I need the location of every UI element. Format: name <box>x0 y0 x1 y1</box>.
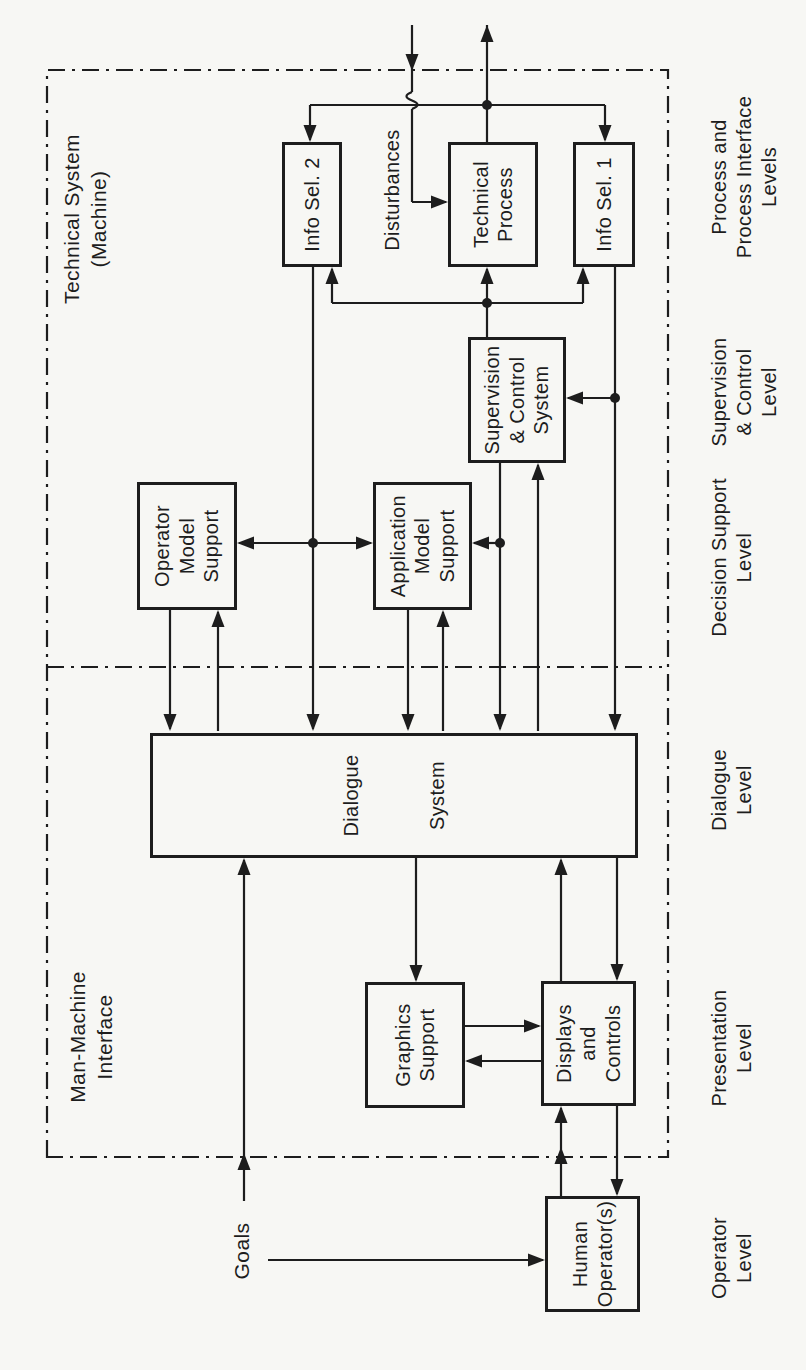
region-label-line: Technical System <box>58 114 85 324</box>
box-label-line: Operator <box>150 505 175 587</box>
level-label-line: Level <box>732 465 757 650</box>
displays-controls-box: Displays and Controls <box>541 981 636 1106</box>
box-label-line: Process <box>493 167 518 242</box>
level-label-line: & Control <box>732 317 757 467</box>
box-label-line: Controls <box>601 1005 626 1083</box>
decision-support-level-label: Decision Support Level <box>707 465 757 650</box>
operator-level-label: Operator Level <box>707 1183 757 1333</box>
box-label-line: Human <box>568 1221 593 1287</box>
level-label-line: Level <box>732 1183 757 1333</box>
disturbances-label: Disturbances <box>381 116 404 264</box>
human-operator-box: Human Operator(s) <box>545 1196 640 1312</box>
box-label-line: & Control <box>505 357 530 444</box>
presentation-level-label: Presentation Level <box>707 968 757 1128</box>
man-machine-interface-label: Man-Machine Interface <box>64 947 118 1127</box>
box-label-line: Support <box>199 510 224 583</box>
technical-process-box: Technical Process <box>448 142 538 267</box>
level-label-line: Dialogue <box>707 715 732 865</box>
disturbance-line-jump <box>407 92 418 109</box>
box-label-line: Graphics <box>391 1003 416 1086</box>
level-label-line: Presentation <box>707 968 732 1128</box>
graphics-support-box: Graphics Support <box>365 982 465 1108</box>
dialogue-level-label: Dialogue Level <box>707 715 757 865</box>
level-label-line: Level <box>732 715 757 865</box>
box-label-line: Dialogue <box>339 754 364 836</box>
application-model-support-box: Application Model Support <box>373 482 472 610</box>
box-label-line: Info Sel. 1 <box>592 157 617 251</box>
supervision-control-level-label: Supervision & Control Level <box>707 317 782 467</box>
level-label-line: Decision Support <box>707 465 732 650</box>
box-label-line: Support <box>435 510 460 583</box>
level-label-line: Operator <box>707 1183 732 1333</box>
level-label-line: Level <box>732 968 757 1128</box>
box-label-line: Model <box>175 518 200 574</box>
box-label-line: and <box>576 1026 601 1061</box>
box-label-line: Operator(s) <box>593 1201 618 1308</box>
box-label-line: System <box>425 761 450 830</box>
box-label-line: Supervision <box>480 346 505 455</box>
technical-system-machine-label: Technical System (Machine) <box>58 114 112 324</box>
rotated-diagram-canvas: Human Operator(s) Displays and Controls … <box>0 0 806 1370</box>
process-interface-levels-label: Process and Process Interface Levels <box>707 84 782 270</box>
level-label-line: Supervision <box>707 317 732 467</box>
region-label-line: Man-Machine <box>64 947 91 1127</box>
operator-model-support-box: Operator Model Support <box>137 482 237 610</box>
scanned-diagram-page: Human Operator(s) Displays and Controls … <box>0 0 806 1370</box>
level-label-line: Level <box>757 317 782 467</box>
goals-label: Goals <box>230 1218 254 1284</box>
box-label-line: Technical <box>469 161 494 248</box>
box-label-line: Support <box>415 1009 440 1082</box>
info-selector-1-box: Info Sel. 1 <box>573 142 635 267</box>
box-label-line: Model <box>410 518 435 574</box>
region-label-line: Interface <box>91 947 118 1127</box>
box-label-line: Application <box>386 495 411 597</box>
supervision-control-system-box: Supervision & Control System <box>468 337 566 463</box>
level-label-line: Process and <box>707 84 732 270</box>
dialogue-system-box: Dialogue System <box>150 733 638 858</box>
box-label-line: Displays <box>552 1004 577 1083</box>
region-label-line: (Machine) <box>85 114 112 324</box>
box-label-line: Info Sel. 2 <box>300 157 325 251</box>
level-label-line: Process Interface <box>732 84 757 270</box>
level-label-line: Levels <box>757 84 782 270</box>
info-selector-2-box: Info Sel. 2 <box>282 142 342 267</box>
box-label-line: System <box>529 365 554 434</box>
